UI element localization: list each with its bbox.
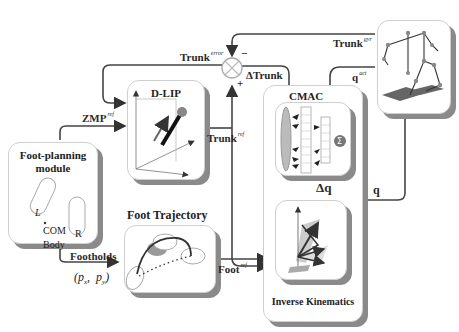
delta-q-label: Δq <box>316 180 331 196</box>
plus-sign: + <box>237 77 243 89</box>
trunk-error-sup: error <box>211 50 223 56</box>
foot-ref-label: Footref <box>218 262 247 275</box>
left-foot-label: L <box>35 207 41 218</box>
q-act-base: q <box>352 71 358 83</box>
inverse-kinematics-icon <box>276 201 346 279</box>
q-act-label: qact <box>352 70 366 83</box>
inverse-kinematics-block <box>275 200 347 280</box>
inverted-pendulum-icon <box>128 81 204 179</box>
footholds-coords: (px, py) <box>74 270 109 286</box>
trunk-ref-base: Trunk <box>207 132 237 144</box>
footholds-label: Footholds <box>70 250 116 262</box>
trunk-gyr-label: Trunkgyr <box>333 36 372 49</box>
trunk-error-base: Trunk <box>180 51 210 63</box>
px-sub: x <box>84 278 87 286</box>
body-label: Body <box>43 239 65 250</box>
zmp-ref-label: ZMPref <box>82 111 114 124</box>
q-label: q <box>373 183 380 198</box>
foot-trajectory-block <box>124 225 216 293</box>
foot-planning-module-block: Foot-planning module L R COM Body <box>8 142 98 244</box>
right-foot-label: R <box>75 228 82 239</box>
trunk-ref-label: Trunkref <box>207 131 244 144</box>
zmp-ref-sup: ref <box>107 111 113 117</box>
trunk-gyr-base: Trunk <box>333 37 363 49</box>
zmp-ref-base: ZMP <box>82 112 106 124</box>
inverse-kinematics-title: Inverse Kinematics <box>264 296 362 307</box>
dlip-block: D-LIP <box>127 80 205 180</box>
foot-trajectory-title: Foot Trajectory <box>127 208 208 223</box>
trunk-ref-sup: ref <box>238 131 244 137</box>
cmac-network-icon: Σ <box>276 103 350 175</box>
sum-symbol: Σ <box>337 137 342 146</box>
foot-trajectory-icon <box>125 226 215 292</box>
foot-ref-base: Foot <box>218 263 239 275</box>
cmac-block: Σ <box>275 102 351 176</box>
py-sub: y <box>102 278 105 286</box>
q-act-sup: act <box>359 70 366 76</box>
trunk-gyr-sup: gyr <box>364 36 372 42</box>
robot-model-block <box>377 20 451 114</box>
com-label: COM <box>43 225 66 236</box>
delta-trunk-label: ΔTrunk <box>246 69 283 81</box>
trunk-error-label: Trunkerror <box>180 50 223 63</box>
biped-robot-icon <box>378 21 450 113</box>
summing-junction <box>222 58 242 78</box>
foot-ref-sup: ref <box>240 262 246 268</box>
minus-sign: − <box>241 47 247 59</box>
cmac-title: CMAC <box>289 90 323 102</box>
